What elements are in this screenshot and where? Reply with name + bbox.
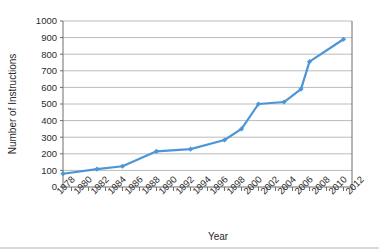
y-axis-tick-label: 900 [41,32,57,43]
y-axis-tick-label: 200 [41,148,57,159]
y-axis-tick-label: 500 [41,98,57,109]
x-axis-title: Year [208,231,229,242]
y-axis-tick-label: 400 [41,115,57,126]
y-axis-tick-label: 300 [41,132,57,143]
y-axis-tick-label: 1000 [36,15,57,26]
y-axis-tick-label: 600 [41,82,57,93]
chart-canvas: 01002003004005006007008009001000 1978198… [0,0,379,249]
line-chart: 01002003004005006007008009001000 1978198… [0,0,379,249]
y-axis-tick-label: 800 [41,49,57,60]
y-axis-title: Number of Instructions [7,54,18,155]
y-axis-tick-labels: 01002003004005006007008009001000 [36,15,57,192]
y-axis-tick-label: 700 [41,65,57,76]
y-axis-tick-label: 100 [41,165,57,176]
